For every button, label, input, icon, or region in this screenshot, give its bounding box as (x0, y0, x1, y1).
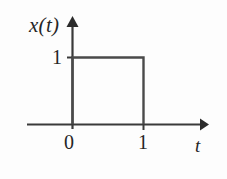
y-axis-label: x(t) (29, 15, 59, 36)
x-tick-label-0: 0 (64, 132, 74, 152)
rect-pulse-waveform (73, 58, 144, 125)
x-axis-arrowhead (200, 119, 209, 131)
y-axis-arrowhead (67, 16, 79, 27)
x-tick-label-1: 1 (138, 132, 148, 152)
signal-plot-figure: x(t) t 1 0 1 (0, 0, 227, 179)
y-tick-label-1: 1 (52, 47, 62, 67)
x-axis-label: t (195, 136, 200, 155)
